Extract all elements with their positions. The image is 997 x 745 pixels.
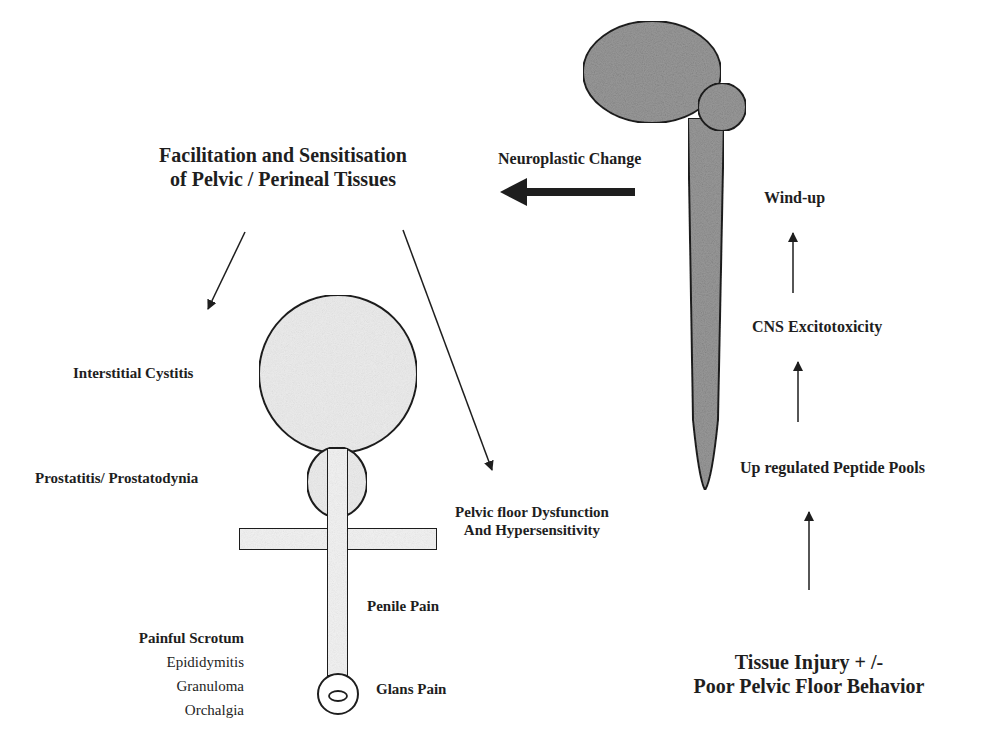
arrow-to-bladder-icon [208,232,245,309]
pelvic-pain-diagram: Facilitation and Sensitisation of Pelvic… [0,0,997,745]
brain-cerebellum-icon [698,83,746,131]
pelvic-floor-dysfunction-label: Pelvic floor Dysfunction And Hypersensit… [432,503,632,539]
facilitation-label-line2: of Pelvic / Perineal Tissues [133,167,433,191]
facilitation-label: Facilitation and Sensitisation of Pelvic… [133,143,433,191]
peptide-pools-label: Up regulated Peptide Pools [740,458,925,477]
cns-excitotoxicity-label: CNS Excitotoxicity [752,317,882,336]
painful-scrotum-title: Painful Scrotum [60,626,244,650]
facilitation-label-line1: Facilitation and Sensitisation [133,143,433,167]
neuroplastic-change-label: Neuroplastic Change [498,149,641,168]
brain-icon [583,21,746,490]
tissue-injury-label-line1: Tissue Injury + /- [644,650,974,674]
meatus-icon [329,691,347,701]
scrotum-item-granuloma: Granuloma [60,674,244,698]
neuroplastic-arrow-icon [500,178,635,206]
spinal-cord-icon [688,118,724,490]
arrow-to-pelvic-floor-icon [403,230,492,470]
bladder-icon [259,295,417,453]
glans-pain-label: Glans Pain [376,680,446,698]
pelvic-anatomy-icon [239,295,437,714]
prostatitis-label: Prostatitis/ Prostatodynia [35,469,198,487]
tissue-injury-label: Tissue Injury + /- Poor Pelvic Floor Beh… [644,650,974,698]
painful-scrotum-group: Painful Scrotum Epididymitis Granuloma O… [60,626,244,722]
scrotum-item-epididymitis: Epididymitis [60,650,244,674]
penile-pain-label: Penile Pain [367,597,439,615]
tissue-injury-label-line2: Poor Pelvic Floor Behavior [644,674,974,698]
pelvic-floor-label-line1: Pelvic floor Dysfunction [432,503,632,521]
urethra-shaft-icon [327,448,348,676]
interstitial-cystitis-label: Interstitial Cystitis [73,364,193,382]
windup-label: Wind-up [764,188,825,207]
pelvic-floor-label-line2: And Hypersensitivity [432,521,632,539]
scrotum-item-orchalgia: Orchalgia [60,698,244,722]
